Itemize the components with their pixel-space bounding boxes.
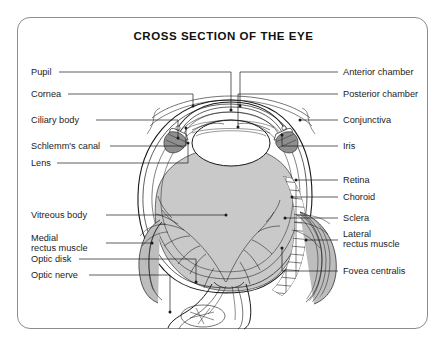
label-cornea: Cornea xyxy=(31,89,61,99)
eye-cross-section-figure xyxy=(0,0,447,344)
label-vitreous-body: Vitreous body xyxy=(31,210,87,220)
label-optic-nerve: Optic nerve xyxy=(31,270,78,280)
label-iris: Iris xyxy=(343,141,355,151)
label-lens: Lens xyxy=(31,158,51,168)
medial-rectus-muscle-shape xyxy=(137,220,168,303)
label-schlemms-canal: Schlemm's canal xyxy=(31,141,100,151)
label-fovea-centralis: Fovea centralis xyxy=(343,266,405,276)
lens-shape xyxy=(192,120,270,166)
vitreous-body-shape xyxy=(155,147,300,291)
label-retina: Retina xyxy=(343,175,370,185)
label-conjunctiva: Conjunctiva xyxy=(343,115,391,125)
label-lateral-rectus-muscle: Lateral rectus muscle xyxy=(343,229,400,250)
label-medial-rectus-muscle: Medial rectus muscle xyxy=(31,233,88,254)
label-pupil: Pupil xyxy=(31,67,51,77)
label-choroid: Choroid xyxy=(343,192,375,202)
label-sclera: Sclera xyxy=(343,213,369,223)
label-optic-disk: Optic disk xyxy=(31,254,71,264)
label-ciliary-body: Ciliary body xyxy=(31,115,79,125)
label-anterior-chamber: Anterior chamber xyxy=(343,67,413,77)
label-posterior-chamber: Posterior chamber xyxy=(343,89,418,99)
